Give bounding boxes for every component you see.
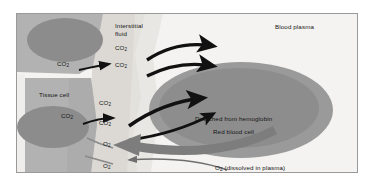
co2-subscript: 2 [109, 122, 112, 127]
co2-subscript: 2 [125, 47, 128, 52]
label-interstitial-fluid: Interstitial fluid [115, 22, 143, 38]
diagram-frame: Interstitial fluid Blood plasma Tissue c… [16, 13, 358, 173]
co2-subscript: 2 [109, 102, 112, 107]
label-o2-dissolved-subscript: 2 [220, 167, 223, 172]
co2-symbol: CO [99, 119, 109, 126]
co2-subscript: 2 [67, 63, 70, 68]
label-interstitial-fluid-line1: Interstitial [115, 22, 143, 29]
label-interstitial-fluid-line2: fluid [115, 30, 127, 37]
label-detached-from-hemoglobin: Detached from hemoglobin [195, 115, 272, 123]
co2-symbol: CO [115, 44, 125, 51]
molecule-o2-upper: O2 [103, 140, 111, 148]
molecule-co2-interstitial-lower: CO2 [115, 61, 127, 69]
o2-subscript: 2 [108, 165, 111, 170]
tissue-cell-nucleus-lower [17, 106, 89, 148]
co2-symbol: CO [99, 99, 109, 106]
molecule-co2-tissue-out: CO2 [57, 60, 69, 68]
label-red-blood-cell: Red blood cell [213, 128, 254, 136]
label-tissue-cell: Tissue cell [39, 91, 69, 99]
co2-symbol: CO [61, 112, 71, 119]
label-o2-dissolved-rest: (dissolved in plasma) [223, 164, 286, 171]
molecule-co2-fluid-upper: CO2 [99, 99, 111, 107]
molecule-o2-lower: O2 [103, 162, 111, 170]
molecule-co2-fluid-lower: CO2 [99, 119, 111, 127]
tissue-cell-nucleus-upper [27, 18, 103, 62]
co2-symbol: CO [57, 60, 67, 67]
label-blood-plasma: Blood plasma [275, 23, 314, 31]
molecule-co2-interstitial-upper: CO2 [115, 44, 127, 52]
co2-subscript: 2 [125, 64, 128, 69]
co2-symbol: CO [115, 61, 125, 68]
o2-subscript: 2 [108, 143, 111, 148]
diagram-canvas: Interstitial fluid Blood plasma Tissue c… [0, 0, 372, 184]
molecule-co2-cell-edge: CO2 [61, 112, 73, 120]
label-o2-dissolved-in-plasma: O2 (dissolved in plasma) [215, 164, 285, 172]
co2-subscript: 2 [71, 115, 74, 120]
